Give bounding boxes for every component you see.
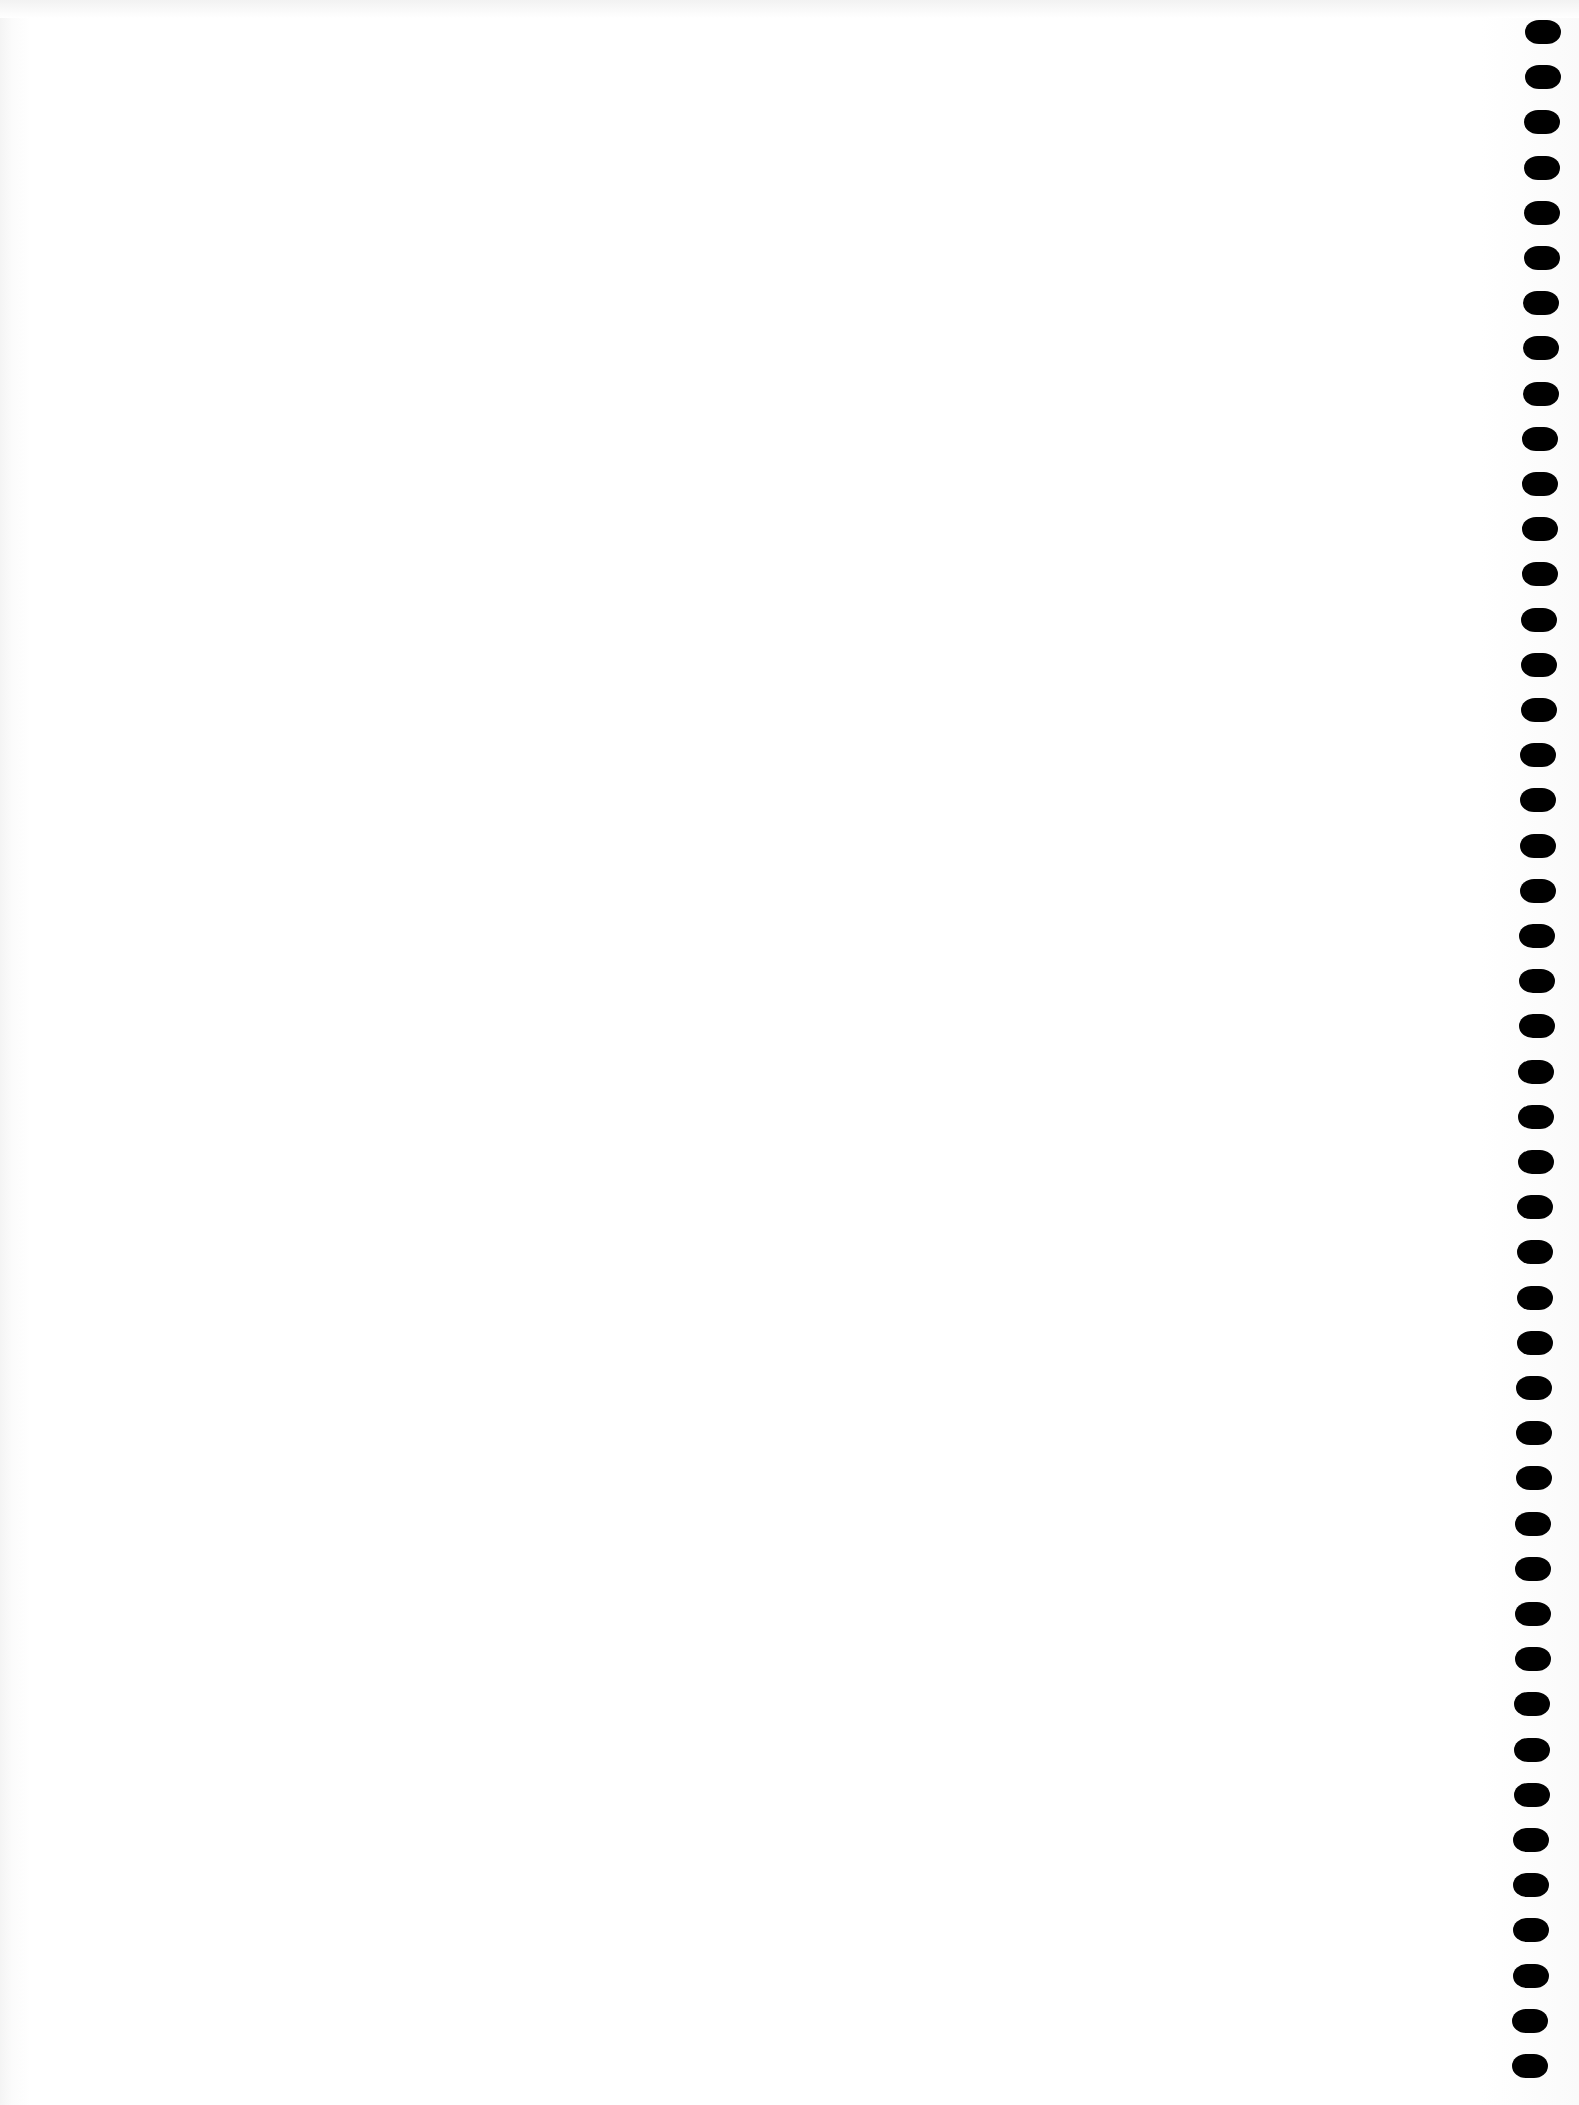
binding-hole bbox=[1516, 1421, 1552, 1445]
binding-hole bbox=[1519, 924, 1555, 948]
binding-hole bbox=[1525, 20, 1561, 44]
binding-hole bbox=[1523, 291, 1559, 315]
blank-writing-area bbox=[40, 40, 1460, 2060]
binding-hole bbox=[1513, 1964, 1549, 1988]
binding-hole bbox=[1512, 2054, 1548, 2078]
binding-hole bbox=[1515, 1602, 1551, 1626]
notebook-page bbox=[0, 0, 1579, 2105]
binding-hole bbox=[1523, 382, 1559, 406]
binding-hole bbox=[1520, 788, 1556, 812]
binding-hole bbox=[1517, 1286, 1553, 1310]
binding-hole bbox=[1517, 1331, 1553, 1355]
binding-hole bbox=[1522, 427, 1558, 451]
binding-hole bbox=[1517, 1240, 1553, 1264]
binding-hole bbox=[1522, 562, 1558, 586]
binding-hole bbox=[1515, 1512, 1551, 1536]
binding-hole bbox=[1518, 1105, 1554, 1129]
binding-hole bbox=[1520, 879, 1556, 903]
binding-hole bbox=[1521, 653, 1557, 677]
binding-hole bbox=[1519, 969, 1555, 993]
binding-hole bbox=[1514, 1692, 1550, 1716]
binding-hole bbox=[1514, 1738, 1550, 1762]
binding-hole bbox=[1519, 1014, 1555, 1038]
binding-hole bbox=[1525, 65, 1561, 89]
binding-hole bbox=[1524, 156, 1560, 180]
binding-hole bbox=[1524, 110, 1560, 134]
binding-hole bbox=[1517, 1195, 1553, 1219]
binding-hole bbox=[1524, 201, 1560, 225]
binding-hole bbox=[1518, 1060, 1554, 1084]
binding-hole bbox=[1513, 1918, 1549, 1942]
binding-hole bbox=[1516, 1466, 1552, 1490]
binding-hole bbox=[1516, 1376, 1552, 1400]
binding-hole bbox=[1513, 1873, 1549, 1897]
binding-hole bbox=[1514, 1783, 1550, 1807]
binding-hole bbox=[1524, 246, 1560, 270]
binding-hole bbox=[1515, 1647, 1551, 1671]
binding-hole bbox=[1512, 2009, 1548, 2033]
binding-hole bbox=[1520, 743, 1556, 767]
binding-hole bbox=[1515, 1557, 1551, 1581]
binding-hole bbox=[1518, 1150, 1554, 1174]
binding-hole bbox=[1513, 1828, 1549, 1852]
binding-hole bbox=[1522, 472, 1558, 496]
binding-hole bbox=[1523, 336, 1559, 360]
binding-hole bbox=[1521, 698, 1557, 722]
binding-hole bbox=[1521, 608, 1557, 632]
binding-hole bbox=[1522, 517, 1558, 541]
page-top-edge-shadow bbox=[0, 0, 1579, 18]
binding-hole bbox=[1520, 834, 1556, 858]
